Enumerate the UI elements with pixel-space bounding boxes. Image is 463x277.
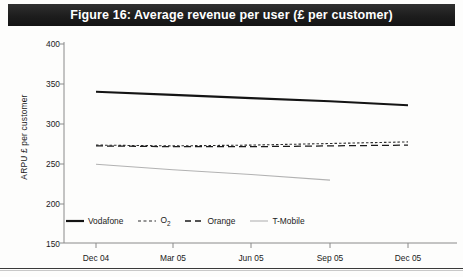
legend-item-orange[interactable]: Orange bbox=[185, 216, 235, 226]
footer-rule bbox=[0, 268, 463, 269]
legend-label-vodafone: Vodafone bbox=[88, 216, 123, 226]
legend-label-t-mobile: T-Mobile bbox=[272, 216, 304, 226]
chart-canvas bbox=[0, 28, 463, 277]
legend-swatch-t-mobile bbox=[250, 216, 268, 226]
legend-item-t-mobile[interactable]: T-Mobile bbox=[250, 216, 304, 226]
series-line-vodafone bbox=[96, 92, 408, 106]
legend: Vodafone O2 Orange T-Mobile bbox=[66, 215, 320, 227]
page-title: Figure 16: Average revenue per user (£ p… bbox=[70, 8, 392, 22]
x-axis-ticks bbox=[96, 243, 408, 248]
legend-item-vodafone[interactable]: Vodafone bbox=[66, 216, 123, 226]
legend-item-o2[interactable]: O2 bbox=[138, 215, 170, 227]
plot-area: ARPU £ per customer 400 350 300 250 200 … bbox=[0, 28, 463, 277]
legend-label-orange: Orange bbox=[207, 216, 235, 226]
series-line-t-mobile bbox=[96, 164, 330, 180]
y-axis-ticks bbox=[60, 44, 64, 243]
figure-container: Figure 16: Average revenue per user (£ p… bbox=[0, 0, 463, 277]
figure-title-bar: Figure 16: Average revenue per user (£ p… bbox=[8, 4, 455, 26]
legend-swatch-orange bbox=[185, 216, 203, 226]
legend-label-o2: O2 bbox=[160, 215, 170, 227]
footer-rule-secondary bbox=[0, 270, 463, 271]
legend-swatch-o2 bbox=[138, 216, 156, 226]
legend-swatch-vodafone bbox=[66, 216, 84, 226]
